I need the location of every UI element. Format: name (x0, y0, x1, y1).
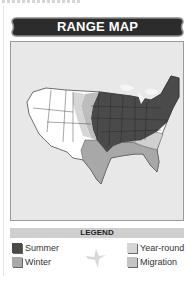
winter-swatch (12, 257, 22, 267)
legend-item-migration: Migration (127, 257, 177, 267)
legend-label: Migration (140, 257, 177, 267)
banner-title: RANGE MAP (11, 17, 184, 37)
bird-silhouette-icon (84, 246, 108, 270)
legend-label: Year-round (140, 243, 184, 253)
page-rule (3, 6, 4, 276)
truncated-text (2, 0, 82, 3)
range-map (10, 41, 184, 221)
legend-label: Summer (25, 243, 59, 253)
legend-label: Winter (25, 257, 51, 267)
us-map (11, 42, 185, 222)
legend-header: LEGEND (10, 228, 184, 238)
legend-item-year-round: Year-round (127, 243, 184, 253)
legend-item-summer: Summer (12, 243, 59, 253)
title-banner: RANGE MAP (11, 17, 184, 37)
summer-swatch (12, 243, 22, 253)
migration-swatch (127, 257, 137, 267)
legend-item-winter: Winter (12, 257, 51, 267)
year-round-swatch (127, 243, 137, 253)
